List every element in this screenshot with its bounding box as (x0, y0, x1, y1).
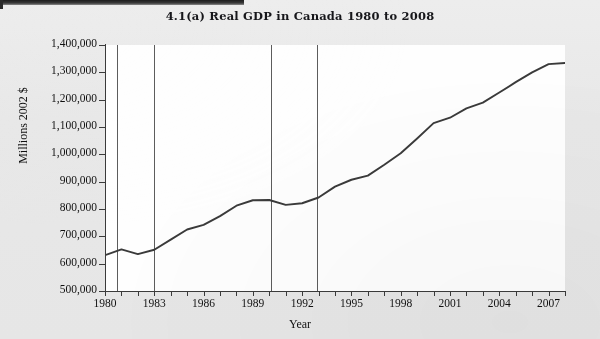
x-tick-label: 1989 (231, 297, 275, 309)
y-tick-label: 1,300,000 (11, 64, 97, 76)
y-tick-label: 700,000 (11, 228, 97, 240)
scanned-page-background: 4.1(a) Real GDP in Canada 1980 to 2008 M… (0, 0, 600, 339)
y-tick-label: 1,400,000 (11, 37, 97, 49)
y-tick-label: 900,000 (11, 174, 97, 186)
chart-title: 4.1(a) Real GDP in Canada 1980 to 2008 (0, 9, 600, 23)
y-tick-label: 1,200,000 (11, 92, 97, 104)
y-tick-label: 1,000,000 (11, 146, 97, 158)
scan-edge-artifact-left (0, 0, 3, 9)
x-tick-label: 1986 (182, 297, 226, 309)
x-tick-label: 2004 (477, 297, 521, 309)
gdp-line (105, 63, 565, 255)
y-tick-label: 600,000 (11, 256, 97, 268)
x-tick-label: 1992 (280, 297, 324, 309)
x-tick-label: 1980 (83, 297, 127, 309)
x-axis-line (105, 291, 566, 292)
x-tick-label: 1983 (132, 297, 176, 309)
y-tick-label: 800,000 (11, 201, 97, 213)
x-tick-label: 1998 (379, 297, 423, 309)
scan-edge-artifact-top (0, 0, 244, 5)
x-tick-label: 2001 (428, 297, 472, 309)
y-tick-label: 1,100,000 (11, 119, 97, 131)
y-tick-label: 500,000 (11, 283, 97, 295)
x-tick-label: 1995 (329, 297, 373, 309)
x-tick-label: 2007 (527, 297, 571, 309)
x-axis-label: Year (0, 317, 600, 332)
gdp-line-series (105, 45, 565, 291)
